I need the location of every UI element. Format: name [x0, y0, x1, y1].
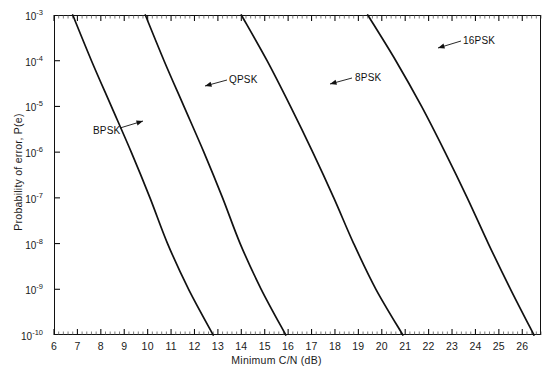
y-tick-label: 10-3 — [0, 8, 43, 21]
data-curves — [73, 15, 534, 335]
curve-label-qpsk: QPSK — [229, 74, 258, 85]
x-tick-label: 6 — [51, 340, 57, 352]
x-axis-title: Minimum C/N (dB) — [0, 354, 553, 366]
figure-container: 67891011121314151617181920212223242526 1… — [0, 0, 553, 372]
x-tick-label: 7 — [74, 340, 80, 352]
x-tick-label: 17 — [306, 340, 318, 352]
minor-tick-marks — [59, 15, 541, 335]
x-tick-label: 11 — [165, 340, 176, 352]
x-tick-label: 16 — [282, 340, 294, 352]
x-tick-label: 15 — [259, 340, 271, 352]
x-tick-label: 10 — [142, 340, 154, 352]
x-tick-label: 19 — [352, 340, 364, 352]
x-tick-label: 18 — [329, 340, 341, 352]
major-tick-marks — [54, 15, 522, 335]
x-tick-label: 8 — [98, 340, 104, 352]
curve-8psk — [241, 15, 403, 335]
x-tick-label: 26 — [516, 340, 528, 352]
curve-label-bpsk: BPSK — [93, 125, 120, 136]
curve-label-8psk: 8PSK — [355, 72, 381, 83]
chart-svg — [0, 0, 553, 372]
x-tick-label: 21 — [399, 340, 411, 352]
curve-bpsk — [73, 15, 213, 335]
x-tick-label: 25 — [493, 340, 505, 352]
curve-qpsk — [145, 15, 285, 335]
y-tick-label: 10-10 — [0, 328, 43, 341]
curve-label-16psk: 16PSK — [463, 35, 495, 46]
y-tick-marks — [54, 61, 60, 290]
x-tick-label: 9 — [121, 340, 127, 352]
x-tick-label: 22 — [423, 340, 435, 352]
x-tick-label: 12 — [188, 340, 200, 352]
x-tick-label: 20 — [376, 340, 388, 352]
y-axis-title: Probability of error, P(e) — [12, 92, 24, 252]
x-tick-label: 13 — [212, 340, 224, 352]
y-tick-label: 10-4 — [0, 54, 43, 67]
x-tick-label: 14 — [235, 340, 247, 352]
x-tick-label: 24 — [469, 340, 481, 352]
y-tick-label: 10-9 — [0, 283, 43, 296]
x-tick-label: 23 — [446, 340, 458, 352]
curve-16psk — [368, 15, 534, 335]
